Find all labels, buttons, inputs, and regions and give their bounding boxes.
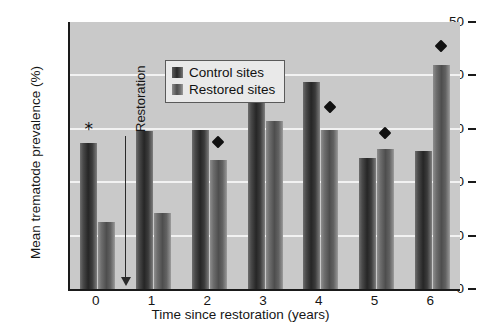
bar-restored-year-6 bbox=[433, 65, 450, 289]
legend-swatch-restored bbox=[172, 84, 183, 95]
bar-control-year-2 bbox=[192, 130, 209, 289]
bar-restored-year-0 bbox=[98, 222, 115, 289]
diamond-marker-year-2 bbox=[212, 135, 225, 148]
diamond-marker-year-6 bbox=[435, 40, 448, 53]
legend-swatch-control bbox=[172, 67, 183, 78]
bar-control-year-5 bbox=[359, 158, 376, 289]
y-tick-mark bbox=[468, 21, 476, 23]
bar-restored-year-2 bbox=[210, 160, 227, 289]
bar-control-year-1 bbox=[136, 131, 153, 289]
bar-restored-year-3 bbox=[266, 121, 283, 289]
x-tick-label: 1 bbox=[132, 294, 172, 308]
y-tick-mark bbox=[468, 181, 476, 183]
bar-restored-year-4 bbox=[321, 130, 338, 289]
star-marker-year-0: * bbox=[85, 120, 94, 137]
x-tick-label: 6 bbox=[410, 294, 450, 308]
plot-area: * Restoration Control sitesRestored site… bbox=[68, 22, 460, 291]
bar-control-year-0 bbox=[80, 143, 97, 289]
y-tick-mark bbox=[468, 74, 476, 76]
legend-label-restored: Restored sites bbox=[189, 83, 275, 97]
y-tick-mark bbox=[468, 235, 476, 237]
legend-item-restored: Restored sites bbox=[172, 81, 275, 98]
bar-control-year-3 bbox=[248, 71, 265, 289]
bar-restored-year-1 bbox=[154, 213, 171, 289]
diamond-marker-year-4 bbox=[323, 101, 336, 114]
x-tick-label: 4 bbox=[299, 294, 339, 308]
legend-item-control: Control sites bbox=[172, 64, 275, 81]
x-tick-label: 2 bbox=[187, 294, 227, 308]
bar-control-year-4 bbox=[303, 82, 320, 289]
legend-label-control: Control sites bbox=[189, 66, 264, 80]
y-axis-title: Mean trematode prevalence (%) bbox=[28, 43, 43, 283]
x-tick-label: 0 bbox=[76, 294, 116, 308]
bar-control-year-6 bbox=[415, 151, 432, 289]
bar-restored-year-5 bbox=[377, 149, 394, 289]
x-tick-label: 5 bbox=[354, 294, 394, 308]
x-tick-label: 3 bbox=[243, 294, 283, 308]
y-tick-mark bbox=[468, 128, 476, 130]
x-axis-title: Time since restoration (years) bbox=[0, 307, 481, 322]
restoration-arrow-line bbox=[125, 136, 127, 279]
chart-figure: Mean trematode prevalence (%) 0102030405… bbox=[0, 0, 481, 325]
y-axis: Mean trematode prevalence (%) bbox=[0, 0, 68, 325]
chart-legend: Control sitesRestored sites bbox=[165, 60, 285, 103]
restoration-arrow-head bbox=[121, 277, 131, 286]
y-tick-mark bbox=[468, 288, 476, 290]
